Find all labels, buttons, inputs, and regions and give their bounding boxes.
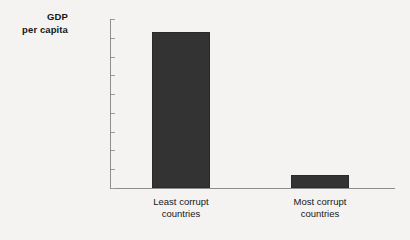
x-axis-category-label-line: Most corrupt	[255, 196, 385, 208]
x-axis-category-label: Most corruptcountries	[255, 196, 385, 219]
x-axis-category-label: Least corruptcountries	[116, 196, 246, 219]
y-axis-tick	[111, 132, 115, 133]
y-axis-title: GDP per capita	[0, 11, 68, 36]
bar	[152, 32, 210, 188]
y-axis-title-line-2: per capita	[0, 24, 68, 37]
y-axis-tick	[111, 169, 115, 170]
y-axis-tick	[111, 38, 115, 39]
y-axis-line	[110, 19, 111, 188]
y-axis-tick	[111, 94, 115, 95]
x-axis-line	[110, 188, 395, 189]
y-axis-tick	[111, 19, 115, 20]
y-axis-title-line-1: GDP	[0, 11, 68, 24]
x-axis-category-label-line: Least corrupt	[116, 196, 246, 208]
y-axis-tick	[111, 75, 115, 76]
y-axis-tick	[111, 113, 115, 114]
x-axis-category-label-line: countries	[116, 208, 246, 220]
y-axis-tick	[111, 57, 115, 58]
y-axis-tick	[111, 150, 115, 151]
x-axis-category-label-line: countries	[255, 208, 385, 220]
y-axis-tick	[111, 188, 115, 189]
bar-chart: GDP per capita 05,00010,00015,00020,0002…	[0, 0, 410, 240]
bar	[291, 175, 349, 188]
plot-area: 05,00010,00015,00020,00025,00030,00035,0…	[110, 19, 395, 188]
